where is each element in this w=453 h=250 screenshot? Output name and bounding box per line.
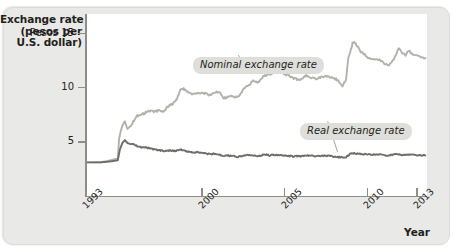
y-tick-label-10: 10 bbox=[61, 81, 74, 92]
x-axis-title: Year bbox=[404, 226, 430, 238]
y-tick-10 bbox=[78, 87, 86, 89]
y-tick-label-15: Pesos 15 bbox=[30, 27, 74, 38]
y-tick-5 bbox=[78, 141, 86, 143]
chart-lines bbox=[86, 14, 427, 196]
callout-real-exchange-rate: Real exchange rate bbox=[300, 123, 412, 140]
series-line-real-exchange-rate bbox=[86, 140, 425, 162]
plot-area bbox=[86, 14, 427, 196]
y-axis-line bbox=[85, 14, 87, 197]
y-tick-15 bbox=[78, 33, 86, 35]
callout-nominal-exchange-rate: Nominal exchange rate bbox=[193, 57, 324, 74]
y-axis-title-line-1: Exchange rate bbox=[0, 14, 82, 26]
y-tick-label-5: 5 bbox=[68, 135, 74, 146]
y-axis-title-line-3: U.S. dollar) bbox=[0, 37, 82, 49]
exchange-rate-figure: Exchange rate (pesos per U.S. dollar) 51… bbox=[0, 0, 453, 250]
x-tick-2005 bbox=[284, 188, 286, 196]
